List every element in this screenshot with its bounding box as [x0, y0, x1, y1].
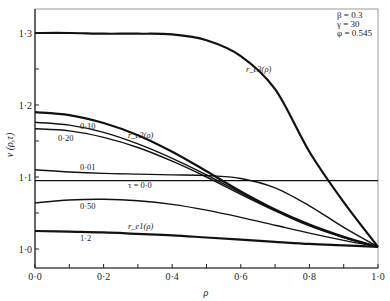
y-tick-label: 1·1 — [19, 172, 32, 183]
plot-frame — [35, 9, 378, 268]
series--0-20 — [35, 129, 378, 247]
x-tick-label: 0·4 — [166, 271, 179, 282]
y-axis-ticks: 1·01·11·21·3 — [19, 28, 39, 255]
curve-label-1-2: 1·2 — [80, 233, 91, 243]
curve-labels: r_e3(ρ)r_e2(ρ)0·100·200·01τ = 0·00·50r_e… — [58, 64, 271, 243]
x-axis-title: ρ — [203, 287, 209, 298]
x-tick-label: 0·6 — [234, 271, 247, 282]
x-axis-ticks: 0·00·20·40·60·81·0 — [28, 264, 384, 282]
curve-label: 0·01 — [80, 162, 96, 172]
x-tick-label: 0·8 — [303, 271, 316, 282]
line-chart: 0·00·20·40·60·81·0 1·01·11·21·3 r_e3(ρ)r… — [0, 0, 390, 301]
series-r-e3- — [35, 33, 378, 247]
curves — [35, 33, 378, 247]
curve-label: 0·50 — [80, 201, 96, 211]
x-tick-label: 0·0 — [28, 271, 41, 282]
x-tick-label: 1·0 — [371, 271, 384, 282]
y-tick-label: 1·3 — [19, 28, 32, 39]
y-tick-label: 1·2 — [19, 100, 32, 111]
curve-label: r_e2(ρ) — [128, 130, 153, 140]
y-axis-title: v (ρ,τ) — [4, 132, 16, 157]
curve-label: τ = 0·0 — [128, 180, 152, 190]
curve-label: 0·10 — [80, 121, 96, 131]
series--0-10 — [35, 122, 378, 247]
y-tick-label: 1·0 — [19, 244, 32, 255]
param-phi: φ = 0.545 — [337, 28, 373, 38]
curve-label: r_e3(ρ) — [246, 64, 271, 74]
curve-label: r_e1(ρ) — [128, 221, 153, 231]
x-tick-label: 0·2 — [97, 271, 110, 282]
curve-label: 0·20 — [58, 133, 74, 143]
